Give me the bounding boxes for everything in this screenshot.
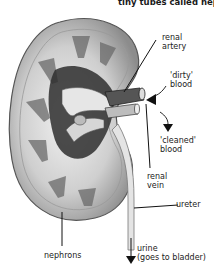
label-line: renal xyxy=(147,172,167,181)
label-urine: urine (goes to bladder) xyxy=(137,244,206,262)
label-line: 'dirty' xyxy=(170,71,193,80)
cleaned-blood-arrow-icon xyxy=(163,124,173,132)
label-ureter: ureter xyxy=(176,200,200,209)
label-line: (goes to bladder) xyxy=(137,253,206,262)
label-line: renal xyxy=(162,33,186,42)
label-cleaned-blood: 'cleaned' blood xyxy=(160,136,196,154)
label-renal-vein: renal vein xyxy=(147,172,167,190)
ureter-leader xyxy=(134,205,178,208)
label-line: urine xyxy=(137,244,206,253)
label-dirty-blood: 'dirty' blood xyxy=(170,71,193,89)
label-renal-artery: renal artery xyxy=(162,33,186,51)
label-line: vein xyxy=(147,181,167,190)
renal-vein-leader xyxy=(146,104,150,168)
label-line: blood xyxy=(160,145,196,154)
dirty-blood-arrow-icon xyxy=(146,94,156,105)
label-line: artery xyxy=(162,42,186,51)
urine-arrow-icon xyxy=(126,256,136,264)
label-nephrons: nephrons xyxy=(44,251,81,260)
label-line: blood xyxy=(170,80,193,89)
label-line: 'cleaned' xyxy=(160,136,196,145)
